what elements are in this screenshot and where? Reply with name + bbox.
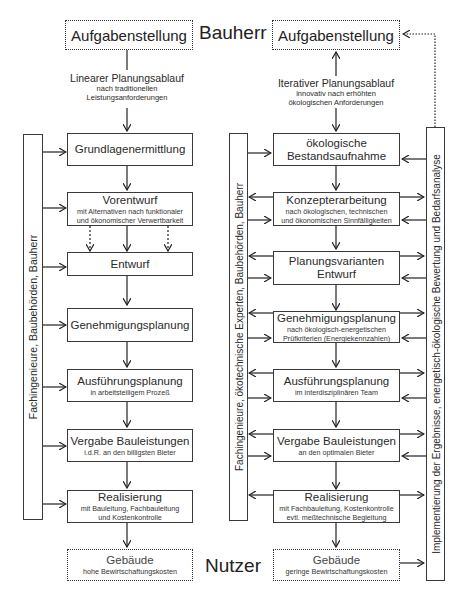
step-title: Grundlagenermittlung (75, 143, 186, 156)
left-flow-sub2: Leistungsanforderungen (60, 93, 194, 102)
left-step-grundlagenermittlung: Grundlagenermittlung (67, 133, 193, 166)
left-step-ausfuehrungsplanung: Ausführungsplanung in arbeitsteiligem Pr… (67, 369, 193, 402)
right-flow-sub2: ökologischen Anforderungen (268, 98, 404, 107)
left-step-vorentwurf: Vorentwurf mit Alternativen nach funktio… (67, 192, 193, 226)
step-title: Vorentwurf (103, 194, 158, 207)
right-end-box: Gebäude geringe Bewirtschaftungskosten (273, 549, 400, 581)
right-step-genehmigungsplanung: Genehmigungsplanung nach ökologisch-ener… (273, 311, 400, 343)
step-title: Genehmigungsplanung (71, 319, 190, 332)
step-title: Entwurf (111, 258, 150, 271)
step-sub: im interdisziplinären Team (295, 388, 378, 397)
right-left-side-bar-label: Fachingenieure, ökotechnische Experten, … (233, 183, 244, 471)
left-step-entwurf: Entwurf (67, 252, 193, 276)
step-title: Realisierung (98, 491, 162, 504)
left-flow-label: Linearer Planungsablauf nach traditionel… (60, 72, 194, 102)
left-flow-title: Linearer Planungsablauf (60, 72, 194, 84)
step-title: Planungsvarianten (289, 255, 384, 268)
right-right-side-bar: Implementierung der Ergebnisse, energeti… (426, 127, 445, 581)
step-title2: Bestandsaufnahme (287, 150, 386, 163)
step-sub: Prüfkriterien (Energiekennzahlen) (283, 334, 390, 343)
right-flow-label: Iterativer Planungsablauf innovativ nach… (268, 77, 404, 107)
right-step-ausfuehrungsplanung: Ausführungsplanung im interdisziplinären… (273, 369, 400, 402)
end-title: Gebäude (313, 554, 360, 567)
right-step-realisierung: Realisierung mit Fachbauleitung, Kostenk… (273, 490, 400, 523)
right-step-planungsvarianten: Planungsvarianten Entwurf (273, 251, 400, 285)
step-sub: evtl. meßtechnische Begleitung (287, 513, 387, 522)
step-title: Vergabe Bauleistungen (71, 435, 190, 448)
left-step-vergabe: Vergabe Bauleistungen i.d.R. an den bill… (67, 429, 193, 462)
left-side-bar-label: Fachingenieure, Baubehörden, Bauherr (27, 235, 39, 419)
step-title: Genehmigungsplanung (277, 312, 396, 325)
left-step-genehmigungsplanung: Genehmigungsplanung (67, 308, 193, 342)
step-sub: an den optimalen Bieter (299, 448, 375, 457)
end-sub: geringe Bewirtschaftungskosten (286, 567, 388, 576)
end-sub: hohe Bewirtschaftungskosten (83, 567, 177, 576)
left-side-bar: Fachingenieure, Baubehörden, Bauherr (23, 134, 43, 520)
step-sub: und ökonomischer Verwertbarkeit (77, 216, 184, 225)
right-left-side-bar: Fachingenieure, ökotechnische Experten, … (229, 133, 248, 521)
right-step-vergabe: Vergabe Bauleistungen an den optimalen B… (273, 429, 400, 462)
step-title: Konzepterarbeitung (286, 194, 386, 207)
step-sub: mit Bauleitung, Fachbauleitung (81, 504, 180, 513)
right-flow-title: Iterativer Planungsablauf (268, 77, 404, 89)
step-sub: nach ökologisch-energetischen (287, 325, 386, 334)
end-title: Gebäude (106, 554, 153, 567)
feedback-loop-arrow (403, 34, 435, 127)
step-title: Ausführungsplanung (77, 375, 183, 388)
right-flow-sub1: innovativ nach erhöhten (268, 89, 404, 98)
right-start-box: Aufgabenstellung (272, 20, 400, 50)
step-title: Ausführungsplanung (284, 375, 390, 388)
right-start-label: Aufgabenstellung (278, 27, 394, 44)
step-sub: mit Fachbauleitung, Kostenkontrolle (279, 504, 393, 513)
step-sub: nach ökologischen, technischen (286, 207, 388, 216)
left-step-realisierung: Realisierung mit Bauleitung, Fachbauleit… (67, 490, 193, 523)
right-step-bestandsaufnahme: ökologische Bestandsaufnahme (273, 133, 400, 166)
step-title: ökologische (306, 137, 367, 150)
left-flow-sub1: nach traditionellen (60, 84, 194, 93)
left-start-box: Aufgabenstellung (65, 20, 193, 50)
role-nutzer: Nutzer (205, 555, 261, 577)
step-sub: und ökonomischen Sinnfälligkeiten (281, 216, 392, 225)
left-end-box: Gebäude hohe Bewirtschaftungskosten (67, 549, 193, 581)
step-sub: und Kostenkontrolle (98, 513, 162, 522)
step-title: Realisierung (305, 491, 369, 504)
step-sub: in arbeitsteiligem Prozeß (90, 388, 169, 397)
right-right-side-bar-label: Implementierung der Ergebnisse, energeti… (430, 154, 441, 554)
role-bauherr: Bauherr (199, 22, 267, 44)
step-sub: mit Alternativen nach funktionaler (77, 207, 183, 216)
step-sub: i.d.R. an den billigsten Bieter (84, 448, 176, 457)
step-title2: Entwurf (317, 268, 356, 281)
right-step-konzepterarbeitung: Konzepterarbeitung nach ökologischen, te… (273, 192, 400, 226)
left-start-label: Aufgabenstellung (71, 27, 187, 44)
step-title: Vergabe Bauleistungen (277, 435, 396, 448)
